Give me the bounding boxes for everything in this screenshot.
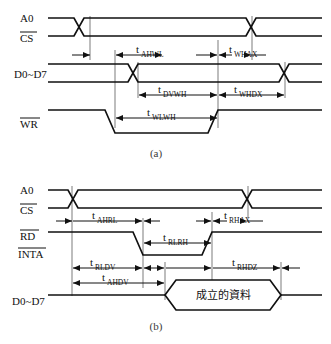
t-ahdv-sub: AHDV xyxy=(107,278,129,287)
measure-t-ahdv: t AHDV xyxy=(73,271,164,287)
t-ahdv-base: t xyxy=(102,271,105,283)
t-ahrl-sub: AHRL xyxy=(97,216,118,225)
waveform-wr-a xyxy=(48,110,322,133)
waveform-d0-d7-a xyxy=(48,64,322,82)
measure-b-data-access-tick xyxy=(144,265,211,271)
t-wlwh-base: t xyxy=(147,106,150,118)
t-wlwh-sub: WLWH xyxy=(152,113,176,122)
t-whdx-sub: WHDX xyxy=(239,90,263,99)
t-whax-base: t xyxy=(229,43,232,55)
t-whdx-base: t xyxy=(234,83,237,95)
signal-label-b-cs: CS xyxy=(20,204,33,216)
waveform-a0-cs-b xyxy=(48,190,322,208)
diagram-a: A0 CS D0~D7 WR xyxy=(14,12,322,160)
t-rldv-sub: RLDV xyxy=(95,263,116,272)
t-whax-sub: WHAX xyxy=(234,50,258,59)
t-rhdz-base: t xyxy=(232,256,235,268)
t-rhax-base: t xyxy=(224,209,227,221)
measure-t-rhdz: t RHDZ xyxy=(213,256,300,272)
t-dvwh-base: t xyxy=(158,83,161,95)
measure-b-setup-tick xyxy=(56,218,72,224)
timing-figure: A0 CS D0~D7 WR xyxy=(0,0,331,344)
measure-t-ahwl: t AHWL xyxy=(116,43,217,59)
signal-label-b-inta: INTA xyxy=(18,248,43,260)
measure-t-rhax: t RHAX xyxy=(213,209,263,225)
signal-label-b-d0-d7: D0~D7 xyxy=(12,295,45,307)
caption-b: (b) xyxy=(150,320,163,333)
signal-label-b-rd: RD xyxy=(20,230,35,242)
signal-label-a0: A0 xyxy=(20,12,34,24)
measure-t-whdx: t WHDX xyxy=(219,83,284,99)
waveform-a0-cs-a xyxy=(48,18,322,36)
t-rhax-sub: RHAX xyxy=(229,216,251,225)
signal-label-wr: WR xyxy=(20,118,38,130)
measure-a-setup-tick xyxy=(72,52,90,58)
t-ahwl-sub: AHWL xyxy=(141,50,164,59)
data-valid-label: 成立的資料 xyxy=(196,288,251,302)
measure-t-ahrl: t AHRL xyxy=(73,209,142,225)
caption-a: (a) xyxy=(150,147,163,160)
measure-t-rlrh: t RLRH xyxy=(144,218,211,247)
t-ahrl-base: t xyxy=(92,209,95,221)
signal-label-cs: CS xyxy=(20,32,33,44)
t-rldv-base: t xyxy=(90,256,93,268)
diagram-a-reference-lines xyxy=(90,16,285,128)
t-rlrh-sub: RLRH xyxy=(168,238,189,247)
t-rlrh-base: t xyxy=(163,231,166,243)
diagram-a-labels: A0 CS D0~D7 WR xyxy=(14,12,47,130)
t-dvwh-sub: DVWH xyxy=(163,90,187,99)
t-ahwl-base: t xyxy=(136,43,139,55)
t-rhdz-sub: RHDZ xyxy=(237,263,258,272)
measure-t-dvwh: t DVWH xyxy=(139,83,217,99)
diagram-b-labels: A0 CS RD INTA D0~D7 xyxy=(12,184,46,307)
signal-label-b-a0: A0 xyxy=(20,184,34,196)
diagram-b: A0 CS RD INTA D0~D7 xyxy=(12,184,322,333)
signal-label-d0-d7: D0~D7 xyxy=(14,68,47,80)
measure-t-wlwh: t WLWH xyxy=(116,106,217,122)
measure-t-rldv: t RLDV xyxy=(73,256,142,272)
measure-t-whax: t WHAX xyxy=(219,43,266,59)
